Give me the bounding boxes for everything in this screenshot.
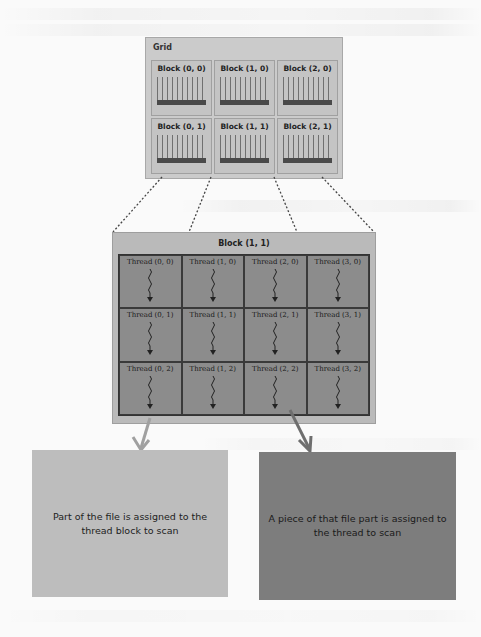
block-note-arrow-icon — [133, 418, 150, 450]
block-note-box: Part of the file is assigned to the thre… — [32, 450, 228, 597]
thread-note-box: A piece of that file part is assigned to… — [259, 452, 456, 600]
thread-note-text: A piece of that file part is assigned to… — [267, 512, 448, 540]
thread-note-arrow-icon — [290, 410, 311, 451]
block-note-text: Part of the file is assigned to the thre… — [40, 510, 220, 538]
